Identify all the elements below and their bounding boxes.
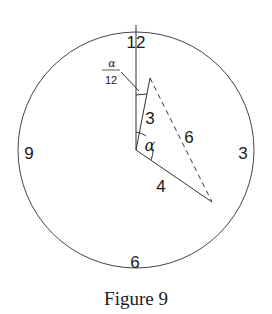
minute-hand-length-label: 4 bbox=[156, 177, 165, 196]
numeral-12: 12 bbox=[127, 33, 146, 52]
tip-distance-label: 6 bbox=[184, 128, 193, 147]
hour-hand-length-label: 3 bbox=[145, 109, 154, 128]
figure-caption: Figure 9 bbox=[104, 288, 168, 309]
numeral-6: 6 bbox=[130, 253, 139, 272]
alpha-angle-label: α bbox=[145, 136, 156, 155]
fraction-numerator-alpha: α bbox=[108, 57, 116, 70]
fraction-denominator-12: 12 bbox=[105, 74, 117, 86]
numeral-9: 9 bbox=[24, 144, 33, 163]
minute-hand bbox=[136, 150, 212, 202]
clock-diagram: 12 3 6 9 α 12 3 6 4 α Figure 9 bbox=[0, 0, 272, 314]
numeral-3: 3 bbox=[238, 144, 247, 163]
small-angle-tick bbox=[136, 94, 147, 95]
